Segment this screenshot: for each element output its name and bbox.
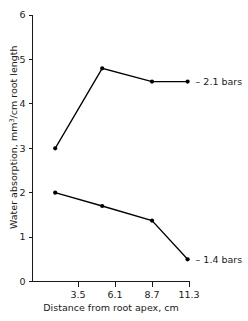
x-axis-title: Distance from root apex, cm <box>43 302 178 313</box>
data-point <box>150 219 154 223</box>
chart-container: 0123456 3.56.18.711.3 – 2.1 bars– 1.4 ba… <box>0 0 248 321</box>
x-tick-label: 3.5 <box>70 289 85 300</box>
y-tick-label: 6 <box>19 9 25 20</box>
y-axis-tick-labels: 0123456 <box>19 9 25 287</box>
data-point <box>100 66 104 70</box>
y-axis-ticks <box>29 15 33 282</box>
x-tick-label: 6.1 <box>107 289 122 300</box>
y-tick-label: 4 <box>19 98 25 109</box>
y-tick-label: 0 <box>19 276 25 287</box>
series-lines <box>55 68 187 259</box>
y-tick-label: 5 <box>19 54 25 65</box>
data-point <box>100 204 104 208</box>
y-tick-label: 3 <box>19 143 25 154</box>
data-point <box>186 257 190 261</box>
series-label: – 2.1 bars <box>196 76 243 87</box>
series-line <box>55 193 187 260</box>
y-tick-label: 2 <box>19 187 25 198</box>
x-tick-label: 8.7 <box>144 289 159 300</box>
data-point <box>186 80 190 84</box>
data-point <box>150 80 154 84</box>
series-points <box>53 66 190 261</box>
data-point <box>53 146 57 150</box>
y-tick-label: 1 <box>19 231 25 242</box>
x-axis-tick-labels: 3.56.18.711.3 <box>70 289 199 300</box>
data-point <box>53 191 57 195</box>
series-label: – 1.4 bars <box>196 254 243 265</box>
series-line <box>55 68 187 148</box>
y-axis-title: Water absorption, mm3/cm root length <box>8 45 20 229</box>
x-tick-label: 11.3 <box>178 289 199 300</box>
line-chart: 0123456 3.56.18.711.3 – 2.1 bars– 1.4 ba… <box>0 0 248 321</box>
x-axis-ticks <box>78 282 189 287</box>
series-inline-labels: – 2.1 bars– 1.4 bars <box>196 76 243 265</box>
